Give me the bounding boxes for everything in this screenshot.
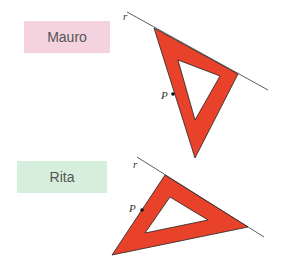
point-p xyxy=(140,208,144,212)
rita-figure: r P xyxy=(112,157,264,255)
mauro-figure: r P xyxy=(123,10,268,158)
line-r-label: r xyxy=(133,158,138,170)
set-square-diagram: r P r P xyxy=(0,0,285,271)
point-p-label: P xyxy=(160,89,168,101)
point-p-label: P xyxy=(128,202,136,214)
line-r xyxy=(127,12,268,90)
line-r-label: r xyxy=(123,10,128,22)
set-square xyxy=(112,175,248,255)
point-p xyxy=(171,92,175,96)
